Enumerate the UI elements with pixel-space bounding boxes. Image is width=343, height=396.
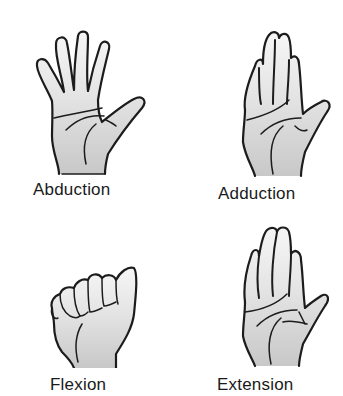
- label-abduction: Abduction: [33, 180, 110, 200]
- hand-abduction-icon: [34, 28, 156, 176]
- hand-adduction-icon: [233, 30, 333, 178]
- panel-abduction: Abduction: [0, 0, 171, 200]
- label-extension: Extension: [217, 375, 293, 395]
- panel-adduction: Adduction: [171, 0, 343, 200]
- panel-flexion: Flexion: [0, 200, 171, 396]
- panel-extension: Extension: [171, 200, 343, 396]
- hand-flexion-icon: [46, 264, 138, 368]
- label-flexion: Flexion: [50, 375, 106, 395]
- hand-extension-icon: [233, 226, 329, 368]
